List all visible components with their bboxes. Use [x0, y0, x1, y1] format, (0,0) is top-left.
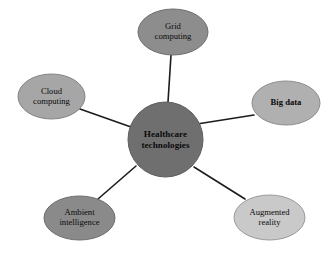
node-big-data[interactable] — [252, 81, 320, 125]
node-augmented-reality[interactable] — [234, 195, 305, 240]
node-healthcare-technologies[interactable] — [128, 102, 203, 177]
node-cloud-computing[interactable] — [18, 74, 85, 119]
edge-center-cloud-computing — [80, 109, 131, 127]
edge-center-big-data — [197, 115, 254, 124]
node-ambient-intelligence[interactable] — [44, 196, 115, 240]
edge-center-augmented-reality — [194, 167, 245, 199]
edge-center-ambient-intelligence — [98, 166, 136, 199]
nodes-group — [18, 9, 320, 240]
diagram-svg — [0, 0, 336, 264]
node-grid-computing[interactable] — [138, 9, 208, 55]
diagram-canvas: GridcomputingBig dataAugmentedrealityAmb… — [0, 0, 336, 264]
edge-center-grid-computing — [168, 55, 171, 102]
